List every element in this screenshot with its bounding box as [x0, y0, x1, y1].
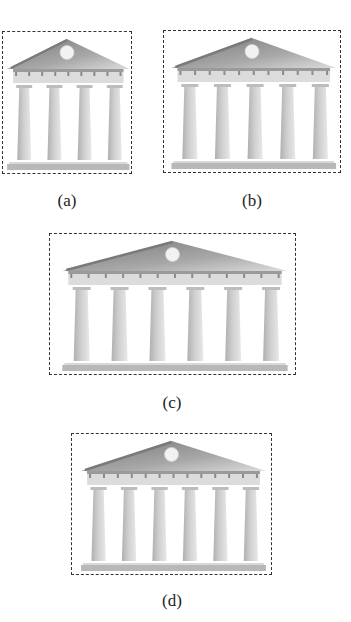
stylobate	[81, 565, 266, 571]
column-capital	[107, 85, 123, 88]
column-capital	[312, 84, 329, 87]
stylobate	[171, 163, 336, 169]
column	[108, 88, 122, 160]
panel-c-label: (c)	[163, 393, 182, 413]
column-capital	[279, 84, 296, 87]
column	[248, 87, 263, 159]
medallion	[245, 45, 259, 59]
dentil	[145, 474, 147, 478]
temple-illustrations	[0, 0, 351, 622]
column-capital	[224, 287, 242, 290]
stylobate-top	[64, 363, 285, 365]
dentil	[209, 71, 211, 75]
dentil	[191, 274, 193, 278]
column-capital	[16, 85, 32, 88]
column-capital	[212, 487, 228, 490]
column-capital	[186, 287, 204, 290]
dentil	[105, 274, 107, 278]
dentil	[179, 71, 181, 75]
dentil	[15, 72, 17, 76]
dentil	[186, 474, 188, 478]
dentil	[80, 72, 82, 76]
column	[263, 290, 279, 361]
column	[215, 87, 230, 159]
column	[183, 490, 197, 561]
dentil	[88, 274, 90, 278]
dentil	[139, 274, 141, 278]
dentil	[41, 72, 43, 76]
stylobate	[62, 365, 287, 371]
column-capital	[182, 487, 198, 490]
column-capital	[247, 84, 264, 87]
column	[225, 290, 241, 361]
dentil	[93, 72, 95, 76]
column	[213, 490, 227, 561]
dentil	[200, 474, 202, 478]
dentil	[223, 71, 225, 75]
panel-a-label: (a)	[58, 191, 77, 211]
column-capital	[151, 487, 167, 490]
stylobate	[7, 164, 129, 170]
dentil	[117, 474, 119, 478]
cornice	[177, 68, 330, 71]
column-capital	[46, 85, 62, 88]
dentil	[326, 71, 328, 75]
dentil	[54, 72, 56, 76]
medallion	[166, 248, 180, 262]
dentil	[106, 72, 108, 76]
cornice	[87, 471, 260, 474]
column-capital	[148, 287, 166, 290]
dentil	[238, 71, 240, 75]
dentil	[209, 274, 211, 278]
column	[78, 88, 92, 160]
dentil	[70, 274, 72, 278]
dentil	[267, 71, 269, 75]
dentil	[243, 274, 245, 278]
dentil	[67, 72, 69, 76]
dentil	[282, 71, 284, 75]
dentil	[89, 474, 91, 478]
dentil	[194, 71, 196, 75]
dentil	[228, 474, 230, 478]
column	[47, 88, 61, 160]
column-capital	[77, 85, 93, 88]
column	[313, 87, 328, 159]
medallion	[60, 46, 74, 60]
dentil	[174, 274, 176, 278]
dentil	[28, 72, 30, 76]
column-capital	[214, 84, 231, 87]
dentil	[214, 474, 216, 478]
dentil	[120, 72, 122, 76]
column	[112, 290, 128, 361]
column	[187, 290, 203, 361]
column	[122, 490, 136, 561]
column-capital	[90, 487, 106, 490]
column	[74, 290, 90, 361]
column	[17, 88, 31, 160]
dentil	[253, 71, 255, 75]
panel-b-label: (b)	[242, 191, 262, 211]
column	[280, 87, 295, 159]
dentil	[256, 474, 258, 478]
dentil	[103, 474, 105, 478]
dentil	[260, 274, 262, 278]
column-capital	[262, 287, 280, 290]
column-capital	[73, 287, 91, 290]
stylobate-top	[83, 563, 264, 565]
column	[149, 290, 165, 361]
dentil	[157, 274, 159, 278]
stylobate-top	[9, 162, 127, 164]
column-capital	[121, 487, 137, 490]
dentil	[131, 474, 133, 478]
column	[182, 87, 197, 159]
panel-d-label: (d)	[162, 591, 182, 611]
column-capital	[181, 84, 198, 87]
column-capital	[111, 287, 129, 290]
column-capital	[243, 487, 259, 490]
dentil	[226, 274, 228, 278]
dentil	[278, 274, 280, 278]
dentil	[311, 71, 313, 75]
column	[91, 490, 105, 561]
column	[244, 490, 258, 561]
column	[152, 490, 166, 561]
